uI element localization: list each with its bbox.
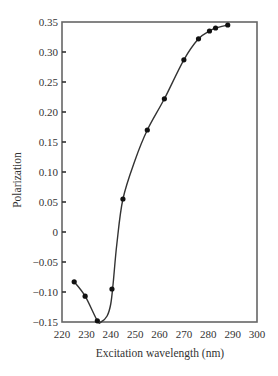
x-tick-label: 280 [200,328,217,340]
data-point [181,57,186,62]
x-tick-label: 220 [54,328,71,340]
data-point [196,36,201,41]
data-point [213,25,218,30]
polarization-chart: −0.15−0.10−0.0500.050.100.150.200.250.30… [0,0,278,376]
x-tick-label: 270 [176,328,193,340]
plot-border [62,22,257,322]
data-point [83,294,88,299]
data-point [120,196,125,201]
data-point [207,28,212,33]
plot-frame [62,22,257,322]
y-tick-label: 0.15 [39,136,59,148]
y-axis: −0.15−0.10−0.0500.050.100.150.200.250.30… [33,16,66,328]
data-curve [74,25,228,323]
x-tick-label: 290 [224,328,241,340]
y-tick-label: 0.30 [39,46,59,58]
data-point [72,279,77,284]
data-point [109,286,114,291]
y-tick-label: 0 [53,226,59,238]
y-axis-title: Polarization [11,152,23,208]
y-tick-label: −0.15 [33,316,59,328]
data-point [225,22,230,27]
y-tick-label: 0.05 [39,196,59,208]
x-tick-label: 250 [127,328,144,340]
y-tick-label: 0.20 [39,106,59,118]
data-point [145,127,150,132]
y-tick-label: 0.10 [39,166,59,178]
data-point [95,318,100,323]
data-markers [72,22,231,323]
x-axis: 220230240250260270280290300 [54,328,266,340]
y-tick-label: 0.35 [39,16,59,28]
y-tick-label: 0.25 [39,76,59,88]
y-tick-label: −0.05 [33,256,59,268]
x-tick-label: 230 [78,328,95,340]
y-tick-label: −0.10 [33,286,59,298]
x-axis-title: Excitation wavelength (nm) [96,347,225,360]
x-tick-label: 240 [103,328,120,340]
data-point [162,96,167,101]
x-tick-label: 300 [249,328,266,340]
x-tick-label: 260 [151,328,168,340]
